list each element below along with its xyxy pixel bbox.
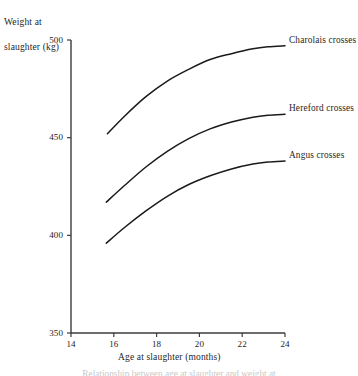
x-tick-label: 18 xyxy=(145,339,169,349)
x-tick-label: 24 xyxy=(273,339,297,349)
x-tick-label: 20 xyxy=(187,339,211,349)
y-tick-label: 450 xyxy=(35,132,63,142)
y-tick-label: 350 xyxy=(35,328,63,338)
y-tick-label: 500 xyxy=(35,35,63,45)
series-label: Angus crosses xyxy=(289,150,344,160)
figure-caption: Relationship between age at slaughter an… xyxy=(0,369,358,376)
x-tick-label: 22 xyxy=(230,339,254,349)
x-tick-label: 14 xyxy=(59,339,83,349)
data-series-lines xyxy=(106,46,285,243)
y-tick-label: 400 xyxy=(35,230,63,240)
axes xyxy=(71,40,285,333)
series-label: Hereford crosses xyxy=(289,103,354,113)
figure-container: Weight at slaughter (kg) 350400450500 14… xyxy=(0,0,358,376)
series-label: Charolais crosses xyxy=(289,35,356,45)
series-line xyxy=(107,46,285,134)
series-line xyxy=(106,161,285,243)
tick-marks xyxy=(67,40,285,337)
y-axis-label-line-1: Weight at xyxy=(4,16,59,29)
x-tick-label: 16 xyxy=(102,339,126,349)
series-line xyxy=(106,114,285,202)
x-axis-label: Age at slaughter (months) xyxy=(118,352,221,362)
